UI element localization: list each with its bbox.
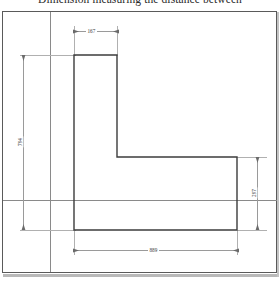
arrow-head-top-right (112, 27, 122, 36)
arrow-head-bottom-left (70, 246, 80, 255)
arrow-head-bottom-right (232, 246, 242, 255)
caption-strip: Dimension measuring the distance between (0, 0, 280, 9)
dimension-label-bottom-width: 889 (148, 247, 159, 253)
dimension-label-left-height: 794 (17, 137, 23, 148)
arrow-head-top-left (70, 27, 80, 36)
dimension-label-right-height: 297 (251, 188, 257, 199)
arrow-head-left-bottom (19, 223, 28, 233)
drawing-canvas: Dimension measuring the distance between… (0, 0, 280, 282)
dimension-label-top-width: 167 (86, 28, 97, 34)
arrow-head-left-top (19, 52, 28, 62)
caption-text: Dimension measuring the distance between (38, 0, 242, 5)
l-shape-outline (0, 0, 280, 282)
arrow-head-right-top (253, 154, 262, 164)
arrow-head-right-bottom (253, 223, 262, 233)
